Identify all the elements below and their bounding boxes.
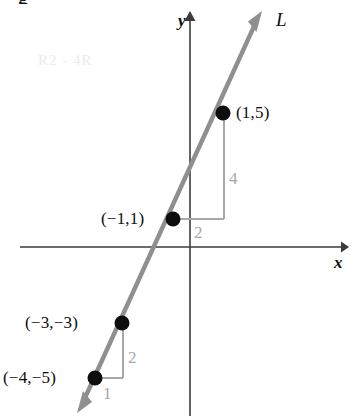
axes-group [20,11,349,416]
slope-run-label-lower: 1 [103,385,112,402]
line-L-arrowhead-top [248,11,262,32]
point-label-neg1-1: (−1,1) [101,210,144,227]
point-label-neg3-neg3: (−3,−3) [25,314,78,331]
point-marker-neg1-1[interactable] [166,212,181,227]
slope-run-label-upper: 2 [194,224,203,241]
point-label-neg4-neg5: (−4,−5) [3,369,56,386]
y-axis-label: y [178,12,186,29]
line-name-label: L [276,10,287,29]
point-label-1-5: (1,5) [236,104,270,121]
slope-rise-label-upper: 4 [229,170,238,187]
x-axis-arrowhead [341,242,349,253]
point-marker-neg3-neg3[interactable] [115,316,130,331]
slope-triangle-upper [174,114,224,219]
point-marker-1-5[interactable] [216,106,231,121]
y-axis-arrowhead [185,11,196,21]
slope-rise-label-lower: 2 [128,349,137,366]
point-marker-neg4-neg5[interactable] [88,371,103,386]
figure-coordinate-plane: R2 - 4R g [0,0,363,416]
diagram-canvas [0,0,363,416]
x-axis-label: x [334,254,343,271]
line-L-arrowhead-bottom [77,391,92,413]
